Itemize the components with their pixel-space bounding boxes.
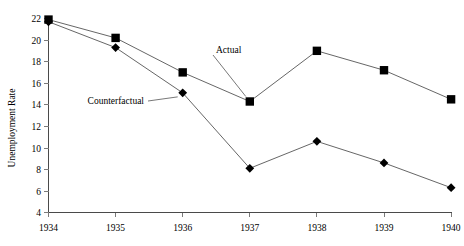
data-point-actual-1935 — [111, 34, 119, 42]
x-axis-ticks: 1934 1935 1936 1937 1938 1939 1940 — [39, 213, 461, 234]
series-actual — [44, 15, 455, 105]
y-axis-title: Unemployment Rate — [7, 89, 17, 168]
y-axis-ticks: 22 20 18 16 14 12 10 8 6 4 — [32, 14, 49, 218]
x-tick-label-1937: 1937 — [240, 223, 259, 233]
data-point-actual-1938 — [313, 47, 321, 55]
data-point-counterfactual-1939 — [380, 159, 389, 168]
x-tick-label-1939: 1939 — [375, 223, 394, 233]
chart-container: Unemployment Rate 22 20 18 16 14 12 10 8… — [0, 0, 464, 246]
y-tick-label-22: 22 — [32, 14, 42, 24]
data-point-actual-1936 — [179, 68, 187, 76]
x-tick-label-1935: 1935 — [106, 223, 125, 233]
data-point-actual-1940 — [447, 95, 455, 103]
series-line-actual — [49, 20, 452, 102]
y-tick-label-12: 12 — [32, 122, 42, 132]
counterfactual-leader-line — [148, 97, 178, 101]
x-tick-label-1934: 1934 — [39, 223, 58, 233]
data-point-counterfactual-1938 — [313, 137, 322, 146]
x-tick-label-1938: 1938 — [307, 223, 326, 233]
data-point-counterfactual-1940 — [447, 183, 456, 192]
actual-leader-line — [213, 55, 246, 96]
y-tick-label-16: 16 — [32, 79, 42, 89]
unemployment-rate-line-chart: Unemployment Rate 22 20 18 16 14 12 10 8… — [0, 0, 464, 246]
y-tick-label-6: 6 — [36, 187, 41, 197]
x-tick-label-1940: 1940 — [442, 223, 461, 233]
y-tick-label-18: 18 — [32, 57, 42, 67]
series-label-counterfactual: Counterfactual — [88, 96, 145, 106]
data-point-counterfactual-1935 — [111, 43, 120, 52]
y-tick-label-20: 20 — [32, 36, 42, 46]
data-point-actual-1937 — [246, 97, 254, 105]
x-tick-label-1936: 1936 — [173, 223, 192, 233]
y-tick-label-14: 14 — [32, 100, 42, 110]
series-label-actual: Actual — [216, 45, 242, 55]
y-tick-label-10: 10 — [32, 144, 42, 154]
data-point-actual-1939 — [380, 66, 388, 74]
y-tick-label-4: 4 — [36, 208, 41, 218]
y-tick-label-8: 8 — [36, 165, 41, 175]
